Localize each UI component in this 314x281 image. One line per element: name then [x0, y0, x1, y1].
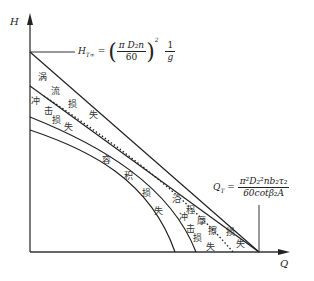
- friction-loss-char: 沿: [172, 195, 181, 204]
- impact-loss-char: 冲: [31, 97, 40, 106]
- left-paren: (: [108, 39, 117, 64]
- friction-loss-char: 摩: [197, 217, 206, 226]
- curve-after-vortex-loss: [30, 86, 259, 252]
- friction-loss-char: 擦: [208, 227, 217, 236]
- vortex-loss-char: 损: [68, 100, 77, 109]
- head-theoretical-formula: HT∞ = (π D₂n60)2 1g: [78, 37, 175, 63]
- formula-tail-fraction: 1g: [165, 41, 175, 62]
- x-axis-arrow-icon: [278, 249, 290, 255]
- formula-eq: =: [227, 182, 235, 192]
- impact-loss-char: 失: [64, 123, 73, 132]
- volumetric-loss-char: 失: [154, 207, 163, 216]
- volumetric-loss-char: 损: [142, 189, 151, 198]
- y-axis-arrow-icon: [27, 13, 33, 25]
- fraction-numerator: π D₂n: [117, 41, 146, 52]
- tail-numerator: 1: [165, 41, 175, 52]
- impact-loss-lower-char: 冲: [179, 213, 188, 222]
- fraction-denominator: 60cotβ₂A: [238, 188, 290, 198]
- volumetric-loss-char: 容: [102, 156, 111, 165]
- vortex-loss-char: 涡: [38, 73, 47, 82]
- formula-fraction: π²D₂²nb₂τ₂60cotβ₂A: [238, 177, 290, 198]
- tail-denominator: g: [165, 52, 175, 62]
- formula-eq: =: [98, 46, 106, 56]
- formula-exponent: 2: [155, 36, 159, 43]
- friction-loss-char: 失: [236, 240, 245, 249]
- curve-after-impact-loss: [30, 117, 196, 252]
- curve-after-friction-loss: [44, 96, 233, 252]
- head-flow-loss-diagram: H Q HT∞ = (π D₂n60)2 1g QT = π²D₂²nb₂τ₂6…: [0, 0, 314, 281]
- vortex-loss-char: 失: [89, 111, 98, 120]
- volumetric-loss-char: 积: [124, 172, 133, 181]
- impact-loss-char: 损: [52, 116, 61, 125]
- friction-loss-char: 损: [226, 228, 235, 237]
- curve-theoretical-head: [30, 52, 259, 252]
- right-paren: ): [146, 39, 155, 64]
- curve-actual-head: [30, 130, 175, 252]
- formula-fraction: π D₂n60: [117, 41, 146, 62]
- fraction-denominator: 60: [117, 52, 146, 62]
- vortex-loss-char: 流: [51, 87, 60, 96]
- y-axis-label: H: [10, 17, 19, 27]
- formula-lhs-sub: T∞: [86, 51, 95, 58]
- formula-lhs: H: [78, 46, 86, 56]
- formula-lhs-sub: T: [220, 187, 224, 194]
- impact-loss-lower-char: 损: [193, 234, 202, 243]
- fraction-numerator: π²D₂²nb₂τ₂: [238, 177, 290, 188]
- flow-theoretical-formula: QT = π²D₂²nb₂τ₂60cotβ₂A: [213, 177, 289, 198]
- impact-loss-lower-char: 失: [206, 243, 215, 252]
- x-axis-label: Q: [280, 259, 288, 269]
